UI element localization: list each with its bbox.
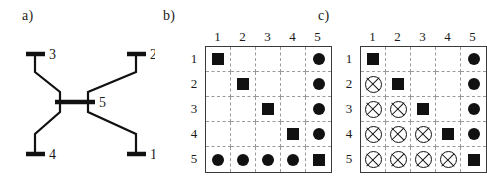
filled-square-icon xyxy=(262,103,274,115)
matrix-c-row-header-5: 5 xyxy=(338,146,360,171)
matrix-c-col-header-1: 1 xyxy=(360,28,385,46)
matrix-c: 12345 12345 xyxy=(338,28,487,173)
matrix-cell xyxy=(461,47,486,72)
matrix-cell xyxy=(281,122,306,147)
edge-2-5 xyxy=(88,54,136,100)
matrix-c-row-header-3: 3 xyxy=(338,96,360,121)
matrix-cell xyxy=(411,97,436,122)
matrix-cell xyxy=(361,147,386,172)
matrix-cell xyxy=(411,147,436,172)
matrix-c-col-header-5: 5 xyxy=(460,28,485,46)
matrix-b-col-header-3: 3 xyxy=(255,28,280,46)
matrix-c-row-header-1: 1 xyxy=(338,46,360,71)
matrix-cell xyxy=(461,147,486,172)
matrix-cell xyxy=(436,97,461,122)
node-label-4: 4 xyxy=(49,147,56,162)
edge-4-5 xyxy=(35,104,60,154)
panel-a: a) 3 2 4 1 xyxy=(0,0,155,185)
matrix-cell xyxy=(281,147,306,172)
matrix-cell xyxy=(206,47,231,72)
network-diagram-a: 3 2 4 1 5 xyxy=(0,0,155,185)
matrix-c-col-header-3: 3 xyxy=(410,28,435,46)
filled-circle-icon xyxy=(468,128,480,140)
filled-square-icon xyxy=(442,128,454,140)
matrix-cell xyxy=(231,47,256,72)
matrix-cell xyxy=(231,97,256,122)
matrix-b-row-header-2: 2 xyxy=(183,71,205,96)
matrix-cell xyxy=(436,122,461,147)
matrix-cell xyxy=(281,97,306,122)
filled-circle-icon xyxy=(468,78,480,90)
matrix-cell xyxy=(256,97,281,122)
filled-square-icon xyxy=(287,128,299,140)
filled-circle-icon xyxy=(468,103,480,115)
matrix-cell xyxy=(461,72,486,97)
matrix-c-grid xyxy=(360,46,487,173)
filled-circle-icon xyxy=(237,154,249,166)
edge-3-5 xyxy=(35,54,60,100)
crossed-circle-icon xyxy=(390,151,407,168)
panel-b-label: b) xyxy=(163,8,175,24)
filled-square-icon xyxy=(237,78,249,90)
matrix-cell xyxy=(461,97,486,122)
crossed-circle-icon xyxy=(390,126,407,143)
matrix-cell xyxy=(256,147,281,172)
filled-circle-icon xyxy=(262,154,274,166)
matrix-cell xyxy=(411,122,436,147)
crossed-circle-icon xyxy=(365,126,382,143)
matrix-cell xyxy=(386,47,411,72)
matrix-cell xyxy=(231,72,256,97)
filled-square-icon xyxy=(468,154,480,166)
matrix-cell xyxy=(436,72,461,97)
matrix-cell xyxy=(461,122,486,147)
matrix-cell xyxy=(231,147,256,172)
crossed-circle-icon xyxy=(390,101,407,118)
filled-circle-icon xyxy=(468,53,480,65)
matrix-cell xyxy=(281,47,306,72)
matrix-cell xyxy=(436,147,461,172)
matrix-cell xyxy=(206,147,231,172)
matrix-b-col-header-4: 4 xyxy=(280,28,305,46)
crossed-circle-icon xyxy=(440,151,457,168)
crossed-circle-icon xyxy=(365,76,382,93)
filled-circle-icon xyxy=(287,154,299,166)
node-label-3: 3 xyxy=(49,47,56,62)
crossed-circle-icon xyxy=(365,151,382,168)
crossed-circle-icon xyxy=(415,126,432,143)
filled-square-icon xyxy=(212,53,224,65)
matrix-b-row-header-4: 4 xyxy=(183,121,205,146)
matrix-cell xyxy=(256,47,281,72)
crossed-circle-icon xyxy=(415,151,432,168)
matrix-cell xyxy=(206,122,231,147)
matrix-b-row-headers: 12345 xyxy=(183,46,205,173)
matrix-cell xyxy=(231,122,256,147)
matrix-c-col-header-4: 4 xyxy=(435,28,460,46)
matrix-c-body: 12345 xyxy=(338,46,487,173)
matrix-cell xyxy=(256,122,281,147)
filled-square-icon xyxy=(367,53,379,65)
panel-b: b) 12345 12345 xyxy=(155,0,310,185)
matrix-cell xyxy=(436,47,461,72)
matrix-cell xyxy=(361,47,386,72)
matrix-c-col-header-2: 2 xyxy=(385,28,410,46)
matrix-c-row-header-2: 2 xyxy=(338,71,360,96)
filled-square-icon xyxy=(417,103,429,115)
crossed-circle-icon xyxy=(365,101,382,118)
matrix-c-row-headers: 12345 xyxy=(338,46,360,173)
matrix-b-col-header-1: 1 xyxy=(205,28,230,46)
panel-c: c) 12345 12345 xyxy=(310,0,481,185)
matrix-cell xyxy=(411,47,436,72)
matrix-cell xyxy=(386,97,411,122)
matrix-cell xyxy=(206,72,231,97)
matrix-cell xyxy=(386,147,411,172)
matrix-cell xyxy=(206,97,231,122)
matrix-cell xyxy=(361,72,386,97)
matrix-c-row-header-4: 4 xyxy=(338,121,360,146)
matrix-cell xyxy=(386,72,411,97)
matrix-b-row-header-3: 3 xyxy=(183,96,205,121)
matrix-cell xyxy=(361,97,386,122)
matrix-cell xyxy=(256,72,281,97)
matrix-b-row-header-1: 1 xyxy=(183,46,205,71)
matrix-cell xyxy=(386,122,411,147)
